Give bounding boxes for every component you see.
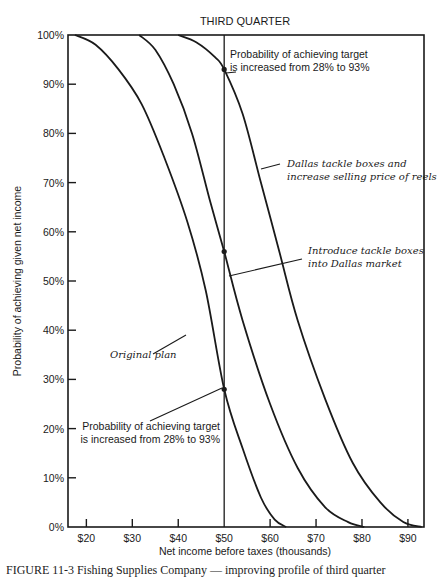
- y-tick-label: 10%: [43, 472, 64, 484]
- annotation-dallas-price: Dallas tackle boxes andincrease selling …: [261, 158, 437, 182]
- x-axis-label: Net income before taxes (thousands): [159, 545, 331, 557]
- annotation-text: Dallas tackle boxes and: [286, 158, 407, 169]
- figure-caption: FIGURE 11-3 Fishing Supplies Company — i…: [6, 563, 386, 578]
- annotation-text: Probability of achieving target: [82, 420, 220, 432]
- annotation-top: Probability of achieving targetis increa…: [226, 48, 369, 73]
- annotation-dallas: Introduce tackle boxesinto Dallas market: [229, 245, 424, 276]
- x-tick-label: $50: [215, 532, 233, 544]
- x-axis: $20$30$40$50$60$70$80$90: [78, 519, 417, 544]
- probability-curves: [75, 35, 422, 527]
- x-tick-label: $70: [307, 532, 325, 544]
- annotation-bottom: Probability of achieving targetis increa…: [81, 388, 222, 445]
- x-tick-label: $90: [399, 532, 417, 544]
- leader-line: [150, 388, 222, 421]
- y-tick-label: 90%: [43, 78, 64, 90]
- plot-frame: [68, 35, 424, 527]
- y-tick-label: 30%: [43, 373, 64, 385]
- annotation-text: Introduce tackle boxes: [307, 245, 424, 256]
- x-tick-label: $30: [124, 532, 142, 544]
- y-tick-label: 20%: [43, 423, 64, 435]
- x-tick-label: $40: [169, 532, 187, 544]
- x-tick-label: $80: [353, 532, 371, 544]
- annotation-text: into Dallas market: [308, 258, 403, 269]
- y-tick-label: 70%: [43, 177, 64, 189]
- target-marker-dot: [222, 249, 227, 254]
- y-tick-label: 0%: [49, 521, 64, 533]
- y-axis-label: Probability of achieving given net incom…: [11, 186, 23, 376]
- curve-1: [75, 35, 286, 527]
- annotation-text: is increased from 28% to 93%: [230, 61, 369, 73]
- target-marker-dot: [222, 67, 227, 72]
- annotation-text: Probability of achieving target: [230, 48, 368, 60]
- annotation-text: Original plan: [110, 349, 177, 360]
- y-tick-label: 100%: [37, 29, 64, 41]
- y-tick-label: 80%: [43, 127, 64, 139]
- annotations: Probability of achieving targetis increa…: [81, 48, 437, 445]
- chart-title: THIRD QUARTER: [200, 15, 290, 27]
- annotation-original: Original plan: [110, 335, 186, 360]
- y-axis: 0%10%20%30%40%50%60%70%80%90%100%: [37, 29, 76, 533]
- curve-3: [178, 35, 422, 527]
- x-tick-label: $60: [261, 532, 279, 544]
- y-tick-label: 60%: [43, 226, 64, 238]
- leader-line: [261, 164, 280, 169]
- leader-line: [229, 259, 302, 276]
- target-marker-dot: [222, 387, 227, 392]
- y-tick-label: 50%: [43, 275, 64, 287]
- annotation-text: increase selling price of reels: [287, 171, 437, 182]
- curve-2: [139, 35, 364, 527]
- y-tick-label: 40%: [43, 324, 64, 336]
- x-tick-label: $20: [78, 532, 96, 544]
- annotation-text: is increased from 28% to 93%: [81, 433, 220, 445]
